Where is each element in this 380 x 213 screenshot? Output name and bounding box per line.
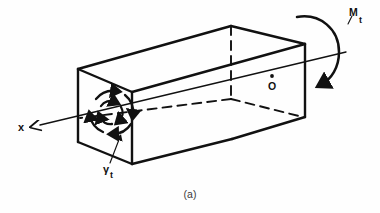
moment-subscript: t (359, 15, 362, 25)
torsion-diagram: x O M t γ t (a) (0, 0, 380, 213)
dot-icon (270, 74, 274, 78)
figure-caption: (a) (184, 188, 197, 200)
shear-subscript: t (110, 170, 113, 180)
moment-symbol: M (349, 6, 358, 18)
x-axis-label: x (18, 121, 25, 133)
origin-label: O (268, 80, 276, 92)
canvas-background (0, 0, 380, 213)
shear-symbol: γ (103, 163, 110, 175)
figure-container: x O M t γ t (a) (0, 0, 380, 213)
